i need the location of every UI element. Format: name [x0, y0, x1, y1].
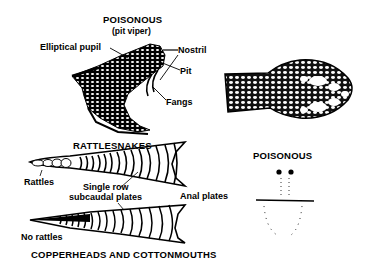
label-nostril: Nostril — [178, 46, 207, 55]
label-single-row: Single row — [83, 183, 129, 192]
head-title: POISONOUS — [103, 15, 162, 25]
label-elliptical-pupil: Elliptical pupil — [40, 43, 101, 52]
bite-pattern-title: POISONOUS — [253, 151, 312, 161]
head-subtitle: (pit viper) — [112, 27, 151, 36]
label-subcaudal-plates: subcaudal plates — [69, 193, 142, 202]
bite-pattern — [256, 169, 314, 235]
label-anal-plates: Anal plates — [180, 192, 228, 201]
label-pit: Pit — [180, 67, 192, 76]
rattlesnakes-title: RATTLESNAKES — [73, 141, 152, 151]
label-fangs: Fangs — [166, 98, 193, 107]
pit-viper-head-top — [225, 60, 352, 118]
copperheads-title: COPPERHEADS AND COTTONMOUTHS — [31, 250, 217, 260]
label-rattles: Rattles — [24, 178, 54, 187]
label-no-rattles: No rattles — [21, 233, 63, 242]
pit-viper-head-side — [72, 44, 180, 134]
